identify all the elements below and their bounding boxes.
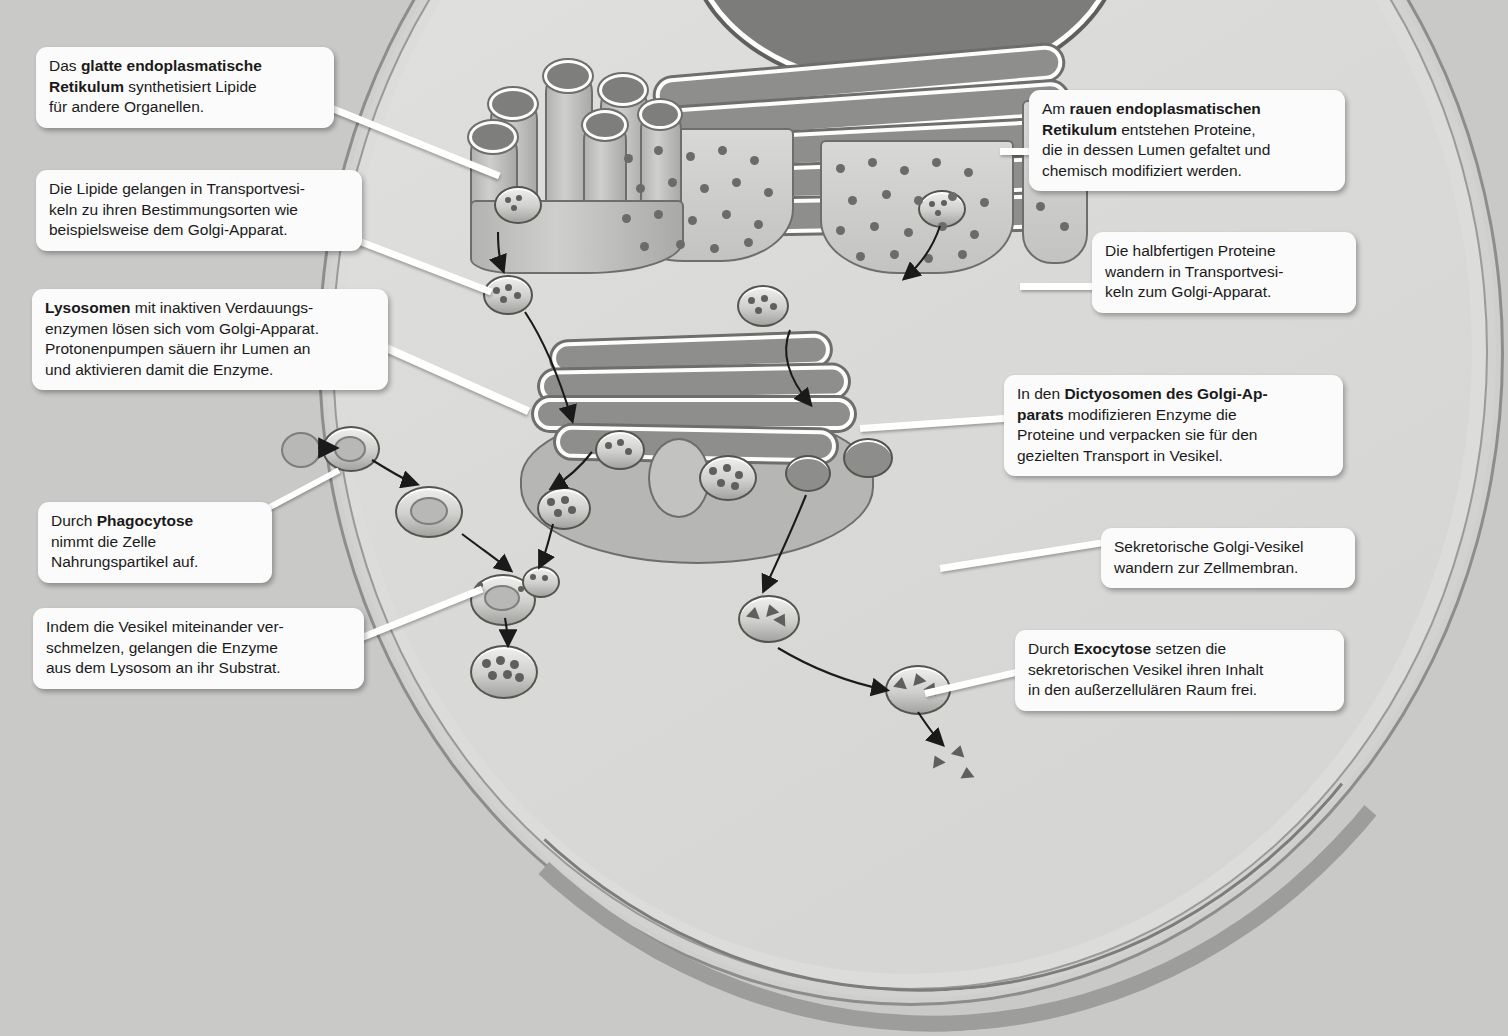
callout-line: Die halbfertigen Proteine: [1105, 241, 1343, 262]
callout-line: aus dem Lysosom an ihr Substrat.: [46, 658, 351, 679]
callout-line: und aktivieren damit die Enzyme.: [45, 360, 375, 381]
callout-line: keln zu ihren Bestimmungsorten wie: [49, 200, 349, 221]
callout-transport-vesicles-lipids[interactable]: Die Lipide gelangen in Transportvesi-kel…: [36, 170, 362, 251]
callout-line: die in dessen Lumen gefaltet und: [1042, 140, 1332, 161]
callout-line: Durch Phagocytose: [51, 511, 259, 532]
callout-line: Die Lipide gelangen in Transportvesi-: [49, 179, 349, 200]
callout-line: Lysosomen mit inaktiven Verdauungs-: [45, 298, 375, 319]
callout-lysosomes[interactable]: Lysosomen mit inaktiven Verdauungs-enzym…: [32, 289, 388, 390]
callout-line: Das glatte endoplasmatische: [49, 56, 321, 77]
callout-vesicle-fusion[interactable]: Indem die Vesikel miteinander ver-schmel…: [33, 608, 364, 689]
rer-sheet-right: [820, 140, 1014, 274]
callout-line: keln zum Golgi-Apparat.: [1105, 282, 1343, 303]
callout-line: nimmt die Zelle: [51, 532, 259, 553]
callout-line: Retikulum synthetisiert Lipide: [49, 77, 321, 98]
callout-line: in den außerzellulären Raum frei.: [1028, 680, 1331, 701]
callout-line: Retikulum entstehen Proteine,: [1042, 120, 1332, 141]
callout-line: Sekretorische Golgi-Vesikel: [1114, 537, 1342, 558]
callout-line: schmelzen, gelangen die Enzyme: [46, 638, 351, 659]
callout-rough-er[interactable]: Am rauen endoplasmatischenRetikulum ents…: [1029, 90, 1345, 191]
callout-phagocytosis[interactable]: Durch Phagocytosenimmt die ZelleNahrungs…: [38, 502, 272, 583]
callout-line: Durch Exocytose setzen die: [1028, 639, 1331, 660]
callout-line: chemisch modifiziert werden.: [1042, 161, 1332, 182]
callout-line: gezielten Transport in Vesikel.: [1017, 446, 1330, 467]
callout-line: In den Dictyosomen des Golgi-Ap-: [1017, 384, 1330, 405]
callout-exocytosis[interactable]: Durch Exocytose setzen diesekretorischen…: [1015, 630, 1344, 711]
callout-line: Am rauen endoplasmatischen: [1042, 99, 1332, 120]
callout-protein-transport[interactable]: Die halbfertigen Proteinewandern in Tran…: [1092, 232, 1356, 313]
callout-line: wandern in Transportvesi-: [1105, 262, 1343, 283]
food-particle: [281, 432, 321, 468]
callout-smooth-er[interactable]: Das glatte endoplasmatischeRetikulum syn…: [36, 47, 334, 128]
callout-line: parats modifizieren Enzyme die: [1017, 405, 1330, 426]
callout-line: beispielsweise dem Golgi-Apparat.: [49, 220, 349, 241]
callout-line: für andere Organellen.: [49, 97, 321, 118]
callout-dictyosomes[interactable]: In den Dictyosomen des Golgi-Ap-parats m…: [1004, 375, 1343, 476]
callout-line: Proteine und verpacken sie für den: [1017, 425, 1330, 446]
callout-line: sekretorischen Vesikel ihren Inhalt: [1028, 660, 1331, 681]
callout-line: Protonenpumpen säuern ihr Lumen an: [45, 339, 375, 360]
callout-line: Indem die Vesikel miteinander ver-: [46, 617, 351, 638]
callout-line: wandern zur Zellmembran.: [1114, 558, 1342, 579]
callout-line: Nahrungspartikel auf.: [51, 552, 259, 573]
callout-line: enzymen lösen sich vom Golgi-Apparat.: [45, 319, 375, 340]
callout-secretory-vesicles[interactable]: Sekretorische Golgi-Vesikelwandern zur Z…: [1101, 528, 1355, 588]
